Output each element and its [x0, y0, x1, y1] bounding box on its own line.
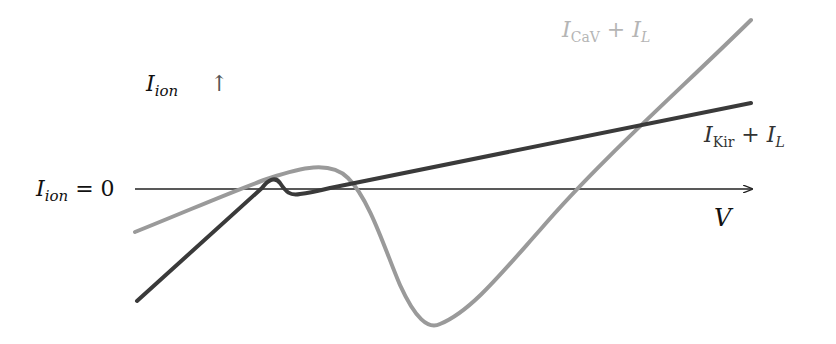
x-axis-label: V [714, 204, 734, 232]
cav-leak-curve [135, 20, 751, 325]
kir-leak-curve [137, 103, 751, 301]
zero-line-label: Iion = 0 [35, 176, 115, 205]
y-axis-label: Iion [145, 71, 178, 100]
up-arrow-icon: ↑ [210, 71, 228, 96]
kir-curve-label: IKir + IL [703, 122, 785, 150]
iv-diagram: Iion ↑ Iion = 0 V ICaV + IL IKir + IL [0, 0, 836, 344]
cav-curve-label: ICaV + IL [561, 17, 650, 45]
